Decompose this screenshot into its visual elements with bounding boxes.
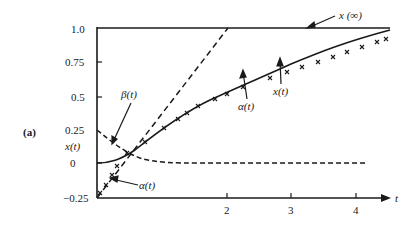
x-t-curve <box>97 30 390 163</box>
y-tick-label: −0.25 <box>63 193 88 204</box>
y-tick-label: 0 <box>70 158 76 169</box>
x-axis-label: t <box>395 193 398 204</box>
x-axis-arrow-icon <box>381 194 391 202</box>
panel-label: (a) <box>23 127 36 138</box>
annotation-arrows <box>110 16 335 185</box>
x-t-annotation: x(t) <box>273 86 288 97</box>
x-tick-label: 4 <box>353 205 359 216</box>
initial-slope-dashed-line <box>97 28 228 198</box>
y-tick-label: 0.75 <box>65 57 84 68</box>
x-tick-label: 3 <box>288 205 294 216</box>
x-tick-label: 2 <box>224 205 230 216</box>
x-infinity-annotation: x (∞) <box>339 10 362 21</box>
y-axis-label: x(t) <box>65 141 80 152</box>
alpha-upper-annotation: α(t) <box>238 101 254 112</box>
alpha-lower-annotation: α(t) <box>139 180 155 191</box>
beta-annotation: β(t) <box>121 89 137 100</box>
y-tick-label: 1.0 <box>71 24 85 35</box>
y-tick-label: 0.25 <box>65 125 84 136</box>
y-tick-label: 0.5 <box>71 92 85 103</box>
alpha-markers <box>98 37 388 195</box>
